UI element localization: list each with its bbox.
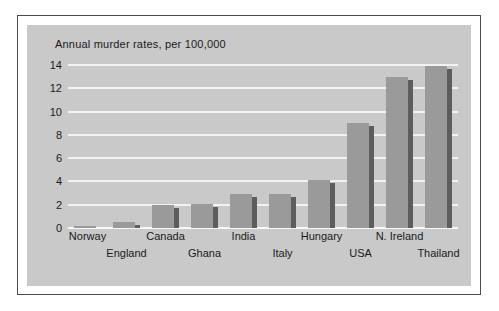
y-tick-label-6: 6 <box>56 152 62 164</box>
bar-side-face <box>330 183 335 228</box>
y-tick-label-14: 14 <box>50 59 62 71</box>
bar-side-face <box>291 197 296 228</box>
x-tick-label-usa: USA <box>349 247 372 259</box>
bar-front-face <box>347 123 369 228</box>
bar-group-usa[interactable] <box>347 65 374 228</box>
bar-side-face <box>213 207 218 228</box>
bar-group-india[interactable] <box>230 65 257 228</box>
bar-side-face <box>174 208 179 228</box>
bar-front-face <box>152 205 174 228</box>
figure-frame: Annual murder rates, per 100,000 0246810… <box>17 15 481 295</box>
x-axis-labels: NorwayEnglandCanadaGhanaIndiaItalyHungar… <box>68 230 458 270</box>
bar-side-face <box>447 69 452 228</box>
y-tick-label-12: 12 <box>50 82 62 94</box>
x-tick-label-norway: Norway <box>69 230 106 242</box>
bar-front-face <box>191 204 213 228</box>
y-tick-label-10: 10 <box>50 106 62 118</box>
y-tick-label-8: 8 <box>56 129 62 141</box>
bar-group-hungary[interactable] <box>308 65 335 228</box>
plot-area: 02468101214 <box>68 65 458 228</box>
x-tick-label-ghana: Ghana <box>188 247 221 259</box>
x-tick-label-canada: Canada <box>146 230 185 242</box>
x-tick-label-india: India <box>232 230 256 242</box>
bar-group-ghana[interactable] <box>191 65 218 228</box>
bar-front-face <box>425 66 447 228</box>
bar-front-face <box>308 180 330 228</box>
bar-group-n-ireland[interactable] <box>386 65 413 228</box>
chart-canvas: Annual murder rates, per 100,000 0246810… <box>27 25 471 286</box>
bar-front-face <box>269 194 291 228</box>
bar-group-england[interactable] <box>113 65 140 228</box>
bar-front-face <box>386 77 408 228</box>
bar-group-thailand[interactable] <box>425 65 452 228</box>
y-tick-label-2: 2 <box>56 199 62 211</box>
bar-group-canada[interactable] <box>152 65 179 228</box>
x-tick-label-thailand: Thailand <box>417 247 459 259</box>
bar-group-italy[interactable] <box>269 65 296 228</box>
y-tick-label-4: 4 <box>56 175 62 187</box>
bar-front-face <box>230 194 252 228</box>
chart-title: Annual murder rates, per 100,000 <box>55 38 226 50</box>
x-tick-label-england: England <box>106 247 146 259</box>
bar-side-face <box>252 197 257 228</box>
x-tick-label-hungary: Hungary <box>301 230 343 242</box>
y-tick-label-0: 0 <box>56 222 62 234</box>
x-tick-label-italy: Italy <box>272 247 292 259</box>
bar-front-face <box>74 226 96 228</box>
x-tick-label-n-ireland: N. Ireland <box>376 230 424 242</box>
bar-side-face <box>408 80 413 228</box>
bar-series <box>68 65 458 228</box>
bar-front-face <box>113 222 135 228</box>
bar-group-norway[interactable] <box>74 65 101 228</box>
bar-side-face <box>135 225 140 228</box>
bar-side-face <box>369 126 374 228</box>
